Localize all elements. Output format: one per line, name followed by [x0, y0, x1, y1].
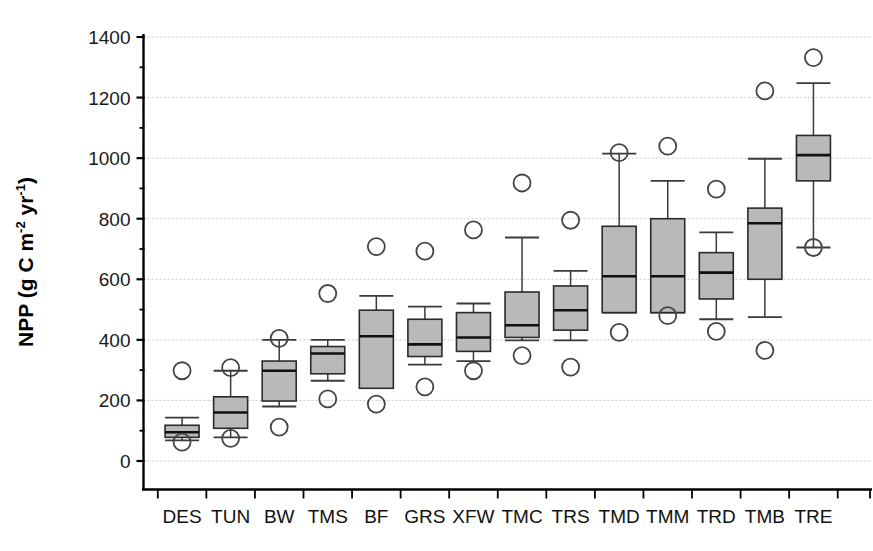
svg-text:NPP (g C m-2 yr-1): NPP (g C m-2 yr-1): [13, 177, 37, 347]
y-axis-title-sup2: -1: [13, 184, 28, 196]
x-tick-label-TMC: TMC: [501, 506, 542, 527]
box-TMS: [311, 347, 345, 374]
x-tick-label-BW: BW: [264, 506, 295, 527]
x-tick-label-XFW: XFW: [452, 506, 494, 527]
box-TRD: [699, 253, 733, 299]
x-tick-label-TMM: TMM: [646, 506, 689, 527]
y-tick-label-600: 600: [99, 269, 131, 290]
y-tick-label-800: 800: [99, 209, 131, 230]
box-XFW: [456, 313, 490, 352]
y-tick-label-1400: 1400: [88, 27, 130, 48]
box-TMB: [748, 208, 782, 279]
y-axis-title-prefix: NPP (g C m: [14, 233, 37, 347]
x-tick-label-TRE: TRE: [794, 506, 832, 527]
x-tick-label-TUN: TUN: [211, 506, 250, 527]
x-tick-label-TMD: TMD: [599, 506, 640, 527]
x-tick-label-GRS: GRS: [404, 506, 445, 527]
y-tick-label-1000: 1000: [88, 148, 130, 169]
y-axis-title-mid: yr: [14, 196, 37, 222]
box-BW: [262, 361, 296, 401]
x-tick-label-TRS: TRS: [552, 506, 590, 527]
y-axis-title-suffix: ): [14, 177, 37, 184]
x-tick-label-TMS: TMS: [308, 506, 348, 527]
y-tick-label-1200: 1200: [88, 88, 130, 109]
y-tick-label-400: 400: [99, 330, 131, 351]
x-tick-label-DES: DES: [163, 506, 202, 527]
boxplot-chart: 0200400600800100012001400 DESTUNBWTMSBFG…: [0, 0, 873, 551]
chart-page: 0200400600800100012001400 DESTUNBWTMSBFG…: [0, 0, 873, 551]
box-BF: [359, 310, 393, 388]
y-axis-title: NPP (g C m-2 yr-1): [13, 177, 37, 347]
x-tick-label-BF: BF: [364, 506, 388, 527]
box-TRS: [554, 286, 588, 330]
y-axis-title-sup1: -2: [13, 221, 28, 233]
y-tick-label-0: 0: [120, 451, 131, 472]
box-TMM: [651, 219, 685, 313]
x-tick-label-TRD: TRD: [697, 506, 736, 527]
box-TMD: [602, 226, 636, 312]
y-tick-label-200: 200: [99, 390, 131, 411]
box-TRE: [796, 135, 830, 180]
box-GRS: [408, 319, 442, 356]
x-tick-label-TMB: TMB: [745, 506, 785, 527]
chart-background: [0, 0, 873, 551]
box-TMC: [505, 292, 539, 337]
